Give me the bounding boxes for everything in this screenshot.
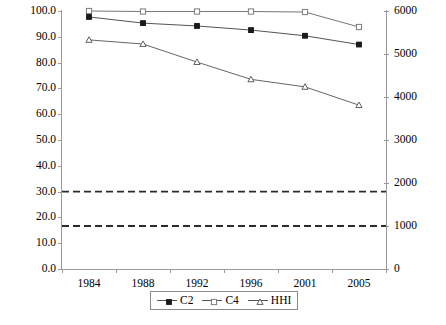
legend-label: C2: [180, 294, 193, 306]
chart-legend: C2C4HHI: [150, 291, 298, 310]
chart-container: 0.010.020.030.040.050.060.070.080.090.01…: [0, 0, 446, 325]
data-point-marker-filled-diamond: [167, 300, 172, 305]
legend-entry-c2[interactable]: C2: [157, 294, 193, 306]
data-point-marker-open-triangle: [257, 299, 263, 305]
data-point-marker-filled-diamond: [195, 24, 200, 29]
data-point-marker-open-square: [356, 24, 361, 29]
legend-entry-c4[interactable]: C4: [202, 294, 238, 306]
series-line-hhi: [89, 40, 359, 105]
legend-marker-filled-diamond-icon: [157, 296, 177, 305]
legend-marker-open-square-icon: [202, 296, 222, 305]
data-point-marker-open-triangle: [86, 37, 92, 43]
series-line-c4: [89, 11, 359, 27]
data-point-marker-open-square: [140, 9, 145, 14]
data-point-marker-open-square: [212, 299, 217, 304]
legend-marker-open-triangle-icon: [248, 296, 268, 305]
series-layer: [0, 0, 446, 325]
data-point-marker-open-square: [302, 9, 307, 14]
data-point-marker-filled-diamond: [87, 15, 92, 20]
data-point-marker-filled-diamond: [303, 33, 308, 38]
legend-label: HHI: [271, 294, 291, 306]
data-point-marker-filled-diamond: [357, 42, 362, 47]
data-point-marker-filled-diamond: [141, 21, 146, 26]
series-line-c2: [89, 17, 359, 45]
data-point-marker-open-square: [86, 8, 91, 13]
series-c4: [86, 8, 361, 29]
data-point-marker-open-square: [194, 9, 199, 14]
series-c2: [87, 15, 362, 47]
data-point-marker-open-square: [248, 9, 253, 14]
data-point-marker-filled-diamond: [249, 28, 254, 33]
legend-label: C4: [225, 294, 238, 306]
series-hhi: [86, 37, 362, 108]
legend-entry-hhi[interactable]: HHI: [248, 294, 291, 306]
